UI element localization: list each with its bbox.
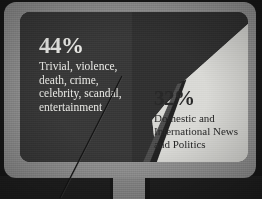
slice-label-news: 32% Domestic and International News and … <box>154 88 248 151</box>
ground-right <box>150 176 262 199</box>
slice-description-news: Domestic and International News and Poli… <box>154 112 248 151</box>
slice-description-trivial: Trivial, violence, death, crime, celebri… <box>39 60 147 114</box>
billboard-photo: 44% Trivial, violence, death, crime, cel… <box>0 0 262 199</box>
slice-description-trivial-line-3: celebrity, scandal, <box>39 87 147 101</box>
slice-description-trivial-line-2: death, crime, <box>39 74 147 88</box>
slice-description-trivial-line-1: Trivial, violence, <box>39 60 147 74</box>
ground-left <box>0 176 110 199</box>
slice-label-trivial: 44% Trivial, violence, death, crime, cel… <box>39 34 147 114</box>
slice-description-trivial-line-4: entertainment <box>39 101 147 115</box>
slice-percent-trivial: 44% <box>39 34 147 57</box>
pie-chart-panel: 44% Trivial, violence, death, crime, cel… <box>20 12 248 162</box>
slice-description-news-line-2: International News <box>154 125 248 138</box>
billboard-post <box>113 176 145 199</box>
slice-percent-news: 32% <box>154 88 248 109</box>
slice-description-news-line-1: Domestic and <box>154 112 248 125</box>
billboard-frame: 44% Trivial, violence, death, crime, cel… <box>4 2 256 178</box>
slice-description-news-line-3: and Politics <box>154 138 248 151</box>
